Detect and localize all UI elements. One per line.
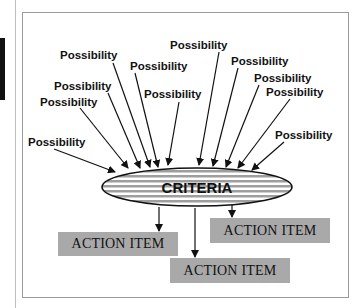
possibility-label-11: Possibility: [275, 129, 333, 141]
action-item-box-1: ACTION ITEM: [58, 232, 178, 256]
possibility-label-7: Possibility: [40, 96, 98, 108]
possibility-label-1: Possibility: [60, 49, 118, 61]
possibility-label-2: Possibility: [170, 39, 228, 51]
action-item-label-1: ACTION ITEM: [72, 236, 165, 252]
criteria-label: CRITERIA: [162, 179, 233, 196]
possibility-label-6: Possibility: [254, 72, 312, 84]
action-item-box-2: ACTION ITEM: [210, 218, 330, 243]
possibility-label-3: Possibility: [130, 60, 188, 72]
action-item-label-3: ACTION ITEM: [184, 263, 277, 279]
possibility-label-5: Possibility: [54, 80, 112, 92]
action-item-box-3: ACTION ITEM: [170, 258, 290, 283]
possibility-label-4: Possibility: [231, 55, 289, 67]
action-item-label-2: ACTION ITEM: [224, 223, 317, 239]
possibility-label-8: Possibility: [266, 86, 324, 98]
possibility-label-9: Possibility: [144, 88, 202, 100]
possibility-label-10: Possibility: [28, 136, 86, 148]
